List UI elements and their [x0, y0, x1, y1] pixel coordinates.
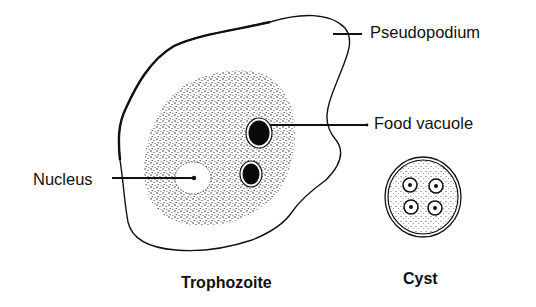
cyst-nucleus	[429, 179, 443, 193]
diagram-illustration	[0, 0, 536, 307]
label-nucleus: Nucleus	[33, 171, 93, 188]
cyst-nucleus	[428, 201, 442, 215]
diagram-canvas: Pseudopodium Food vacuole Nucleus Tropho…	[0, 0, 536, 307]
label-food-vacuole: Food vacuole	[374, 115, 473, 132]
cyst-nucleus	[403, 178, 417, 192]
caption-trophozoite: Trophozoite	[181, 275, 272, 291]
caption-cyst: Cyst	[403, 271, 438, 287]
food-vacuole-upper	[246, 118, 272, 148]
cyst-nucleus	[404, 200, 418, 214]
food-vacuole-lower	[240, 161, 262, 187]
cyst-body	[385, 157, 461, 237]
label-pseudopodium: Pseudopodium	[370, 24, 480, 41]
